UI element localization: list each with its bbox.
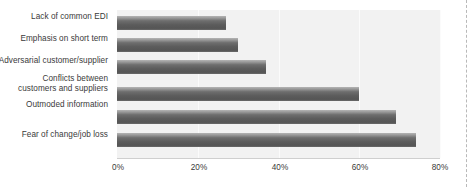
bar-outmoded-information bbox=[117, 110, 396, 124]
category-label-emphasis-on-short-term: Emphasis on short term bbox=[0, 34, 108, 44]
category-label-outmoded-information: Outmoded information bbox=[0, 100, 108, 110]
bar-conflicts-between-customers-and-suppliers bbox=[117, 87, 359, 101]
category-label-line: Adversarial customer/supplier bbox=[0, 56, 108, 66]
category-label-adversarial-customer-supplier: Adversarial customer/supplier bbox=[0, 56, 108, 66]
x-tick-20: 20% bbox=[179, 163, 219, 172]
bar-emphasis-on-short-term bbox=[117, 38, 238, 52]
category-label-line: Conflicts between bbox=[0, 74, 108, 84]
x-tick-0: 0% bbox=[98, 163, 138, 172]
bar-lack-of-common-edi bbox=[117, 16, 226, 30]
plot-area bbox=[117, 10, 440, 158]
x-axis-line bbox=[117, 158, 440, 159]
category-label-line: Fear of change/job loss bbox=[0, 130, 108, 140]
x-tick-40: 40% bbox=[260, 163, 300, 172]
bar-adversarial-customer-supplier bbox=[117, 60, 266, 74]
category-label-line: customers and suppliers bbox=[0, 84, 108, 94]
bar-fear-of-change-job-loss bbox=[117, 133, 416, 147]
category-label-line: Emphasis on short term bbox=[0, 34, 108, 44]
page-edge-rule bbox=[466, 0, 467, 187]
bar-chart: Lack of common EDI Emphasis on short ter… bbox=[0, 0, 469, 187]
category-label-lack-of-common-edi: Lack of common EDI bbox=[0, 12, 108, 22]
x-tick-80: 80% bbox=[420, 163, 460, 172]
category-label-line: Outmoded information bbox=[0, 100, 108, 110]
category-label-fear-of-change-job-loss: Fear of change/job loss bbox=[0, 130, 108, 140]
category-label-conflicts-between-customers-and-suppliers: Conflicts between customers and supplier… bbox=[0, 74, 108, 93]
category-label-column: Lack of common EDI Emphasis on short ter… bbox=[0, 12, 112, 152]
gridline-80 bbox=[440, 10, 441, 158]
x-tick-60: 60% bbox=[340, 163, 380, 172]
category-label-line: Lack of common EDI bbox=[0, 12, 108, 22]
